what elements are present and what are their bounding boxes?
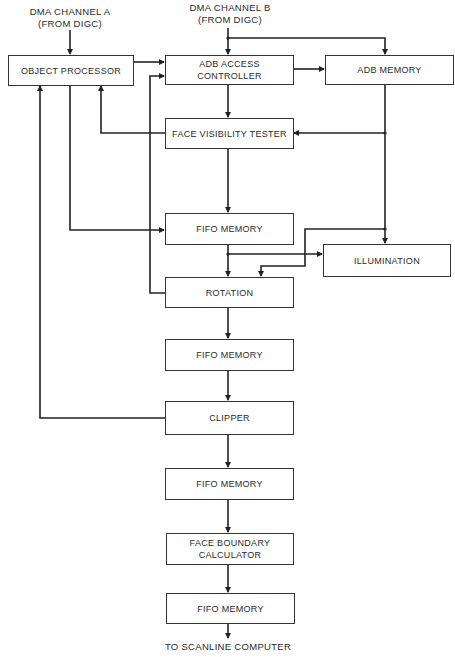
illumination-block: ILLUMINATION [323, 244, 451, 277]
face-boundary-calculator-line2: CALCULATOR [199, 549, 262, 561]
fifo-memory-2-label: FIFO MEMORY [196, 349, 263, 361]
fifo-memory-4-label: FIFO MEMORY [197, 603, 264, 615]
adb-access-controller-label: ADB ACCESS CONTROLLER [166, 58, 293, 82]
adb-access-controller-block: ADB ACCESS CONTROLLER [165, 55, 294, 85]
fifo-memory-1-block: FIFO MEMORY [165, 213, 294, 245]
fifo-memory-1-label: FIFO MEMORY [196, 223, 263, 235]
clipper-label: CLIPPER [209, 412, 250, 424]
clipper-block: CLIPPER [165, 401, 294, 435]
object-processor-block: OBJECT PROCESSOR [8, 55, 134, 86]
fifo-memory-2-block: FIFO MEMORY [165, 339, 294, 371]
face-visibility-tester-label: FACE VISIBILITY TESTER [172, 128, 287, 140]
adb-memory-label: ADB MEMORY [357, 64, 421, 76]
fifo-memory-4-block: FIFO MEMORY [166, 593, 295, 624]
scanline-computer-output-label: TO SCANLINE COMPUTER [148, 641, 308, 653]
face-boundary-calculator-line1: FACE BOUNDARY [190, 537, 271, 549]
rotation-label: ROTATION [206, 287, 254, 299]
object-processor-label: OBJECT PROCESSOR [21, 65, 121, 77]
face-boundary-calculator-block: FACE BOUNDARY CALCULATOR [166, 533, 294, 565]
illumination-label: ILLUMINATION [354, 255, 420, 267]
rotation-block: ROTATION [165, 277, 294, 308]
fifo-memory-3-block: FIFO MEMORY [165, 468, 294, 500]
fifo-memory-3-label: FIFO MEMORY [196, 478, 263, 490]
face-visibility-tester-block: FACE VISIBILITY TESTER [165, 118, 294, 149]
adb-memory-block: ADB MEMORY [325, 55, 454, 85]
